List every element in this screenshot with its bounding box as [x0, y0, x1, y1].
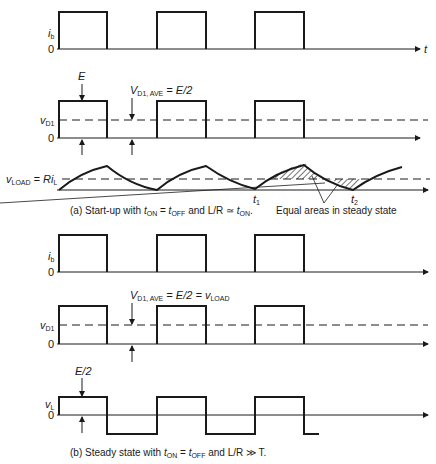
ib-label-b: ib [48, 251, 54, 263]
E-label: E [78, 71, 85, 82]
t-axis-label: t [424, 44, 427, 55]
equal-areas-annotation: Equal areas in steady state [276, 206, 397, 216]
zero-label-b3: 0 [48, 410, 54, 421]
vd1-ave-label-a: VD1, AVE = E/2 [130, 85, 192, 97]
vd1-label-a: vD1 [40, 115, 54, 127]
t1-label: t1 [253, 194, 260, 206]
ib-waveform-a [57, 12, 420, 49]
vl-waveform-b [57, 378, 428, 434]
zero-label-b1: 0 [48, 267, 54, 278]
caption-b: (b) Steady state with tON = tOFF and L/R… [70, 448, 266, 459]
vload-waveform-a [0, 163, 430, 203]
vd1-label-b: vD1 [40, 320, 54, 332]
ib-label-a: ib [48, 28, 54, 40]
vd1-waveform-a [57, 84, 428, 155]
vd1-waveform-b [57, 303, 428, 362]
zero-label-a2: 0 [48, 133, 54, 144]
vload-label: vLOAD = RiL [6, 174, 57, 186]
E2-label: E/2 [75, 366, 92, 377]
ib-waveform-b [57, 235, 428, 272]
zero-label-b2: 0 [48, 339, 54, 350]
waveform-diagram [0, 0, 436, 464]
zero-label-a1: 0 [48, 44, 54, 55]
vd1-ave-label-b: VD1, AVE = E/2 = vLOAD [130, 290, 229, 302]
caption-a: (a) Start-up with tON = tOFF and L/R ≃ t… [70, 206, 253, 217]
